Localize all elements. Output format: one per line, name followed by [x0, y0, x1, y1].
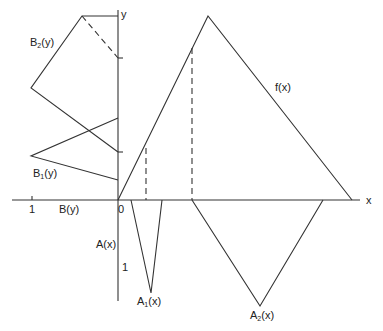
y-axis-label: y: [121, 9, 127, 20]
b2-dashed: [82, 16, 118, 58]
fuzzy-function-diagram: [0, 0, 383, 331]
f-curve-label: f(x): [275, 82, 291, 93]
a2-curve: [192, 200, 323, 306]
a1-curve-label: A1(x): [137, 296, 161, 308]
b-axis-label: B(y): [59, 204, 79, 215]
origin-label: 0: [118, 204, 124, 215]
a-axis-tick-label: 1: [122, 262, 128, 273]
a2-curve-label: A2(x): [250, 310, 274, 322]
a1-curve: [131, 200, 162, 293]
b1-curve-label: B1(y): [33, 168, 57, 180]
b2-curve-label: B2(y): [30, 37, 54, 49]
f-curve: [118, 16, 352, 200]
b-axis-tick-label: 1: [29, 204, 35, 215]
a-axis-label: A(x): [96, 239, 116, 250]
x-axis-label: x: [366, 195, 372, 206]
